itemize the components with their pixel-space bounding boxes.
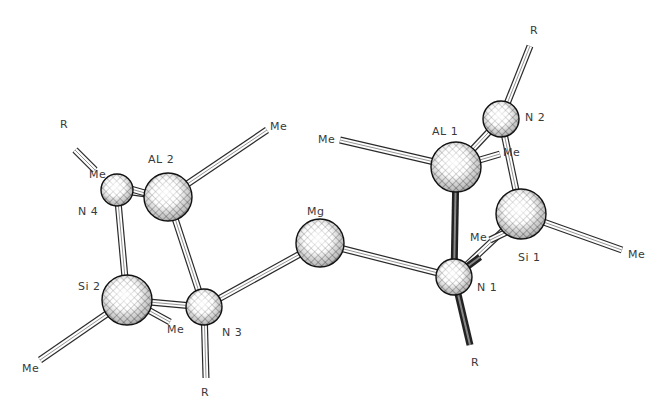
bond <box>75 150 95 170</box>
substituent-label-me: Me <box>89 168 106 181</box>
atom-label-al2: AL 2 <box>148 153 174 166</box>
atom-label-mg: Mg <box>307 205 324 218</box>
atom-si2 <box>102 275 152 325</box>
atom-n2 <box>483 101 519 137</box>
substituent-label-r: R <box>201 386 209 399</box>
atom-label-si2: Si 2 <box>78 280 101 293</box>
atom-label-n2: N 2 <box>525 111 545 124</box>
substituent-label-me: Me <box>503 146 520 159</box>
substituent-label-r: R <box>530 24 538 37</box>
substituent-label-me: Me <box>22 362 39 375</box>
atom-al1 <box>431 142 481 192</box>
atom-al2 <box>144 173 192 221</box>
atom-n1 <box>436 259 472 295</box>
atom-label-n3: N 3 <box>222 326 242 339</box>
atom-label-si1: Si 1 <box>518 251 541 264</box>
substituent-label-me: Me <box>628 248 645 261</box>
atom-label-n4: N 4 <box>78 205 98 218</box>
atom-mg <box>296 219 344 267</box>
substituent-label-me: Me <box>167 323 184 336</box>
substituent-label-r: R <box>60 118 68 131</box>
atom-n3 <box>186 289 222 325</box>
substituent-label-me: Me <box>318 133 335 146</box>
substituent-label-me: Me <box>470 231 487 244</box>
substituent-label-r: R <box>471 356 479 369</box>
atom-label-al1: AL 1 <box>432 125 458 138</box>
substituent-label-me: Me <box>270 120 287 133</box>
atom-label-n1: N 1 <box>477 281 497 294</box>
atom-si1 <box>496 189 546 239</box>
molecular-structure-diagram: AL 2N 4Si 2N 3MgN 1AL 1N 2Si 1RMeMeMeMeR… <box>0 0 666 414</box>
